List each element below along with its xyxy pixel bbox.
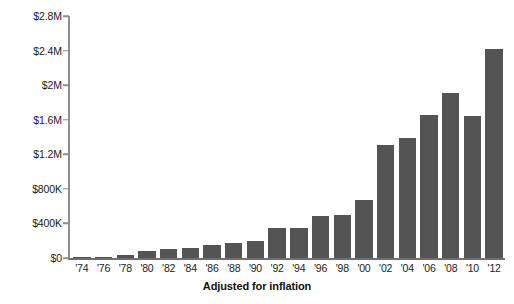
x-axis-tick-label: '90 xyxy=(245,262,267,274)
x-axis-tick-label: '98 xyxy=(331,262,353,274)
bar xyxy=(73,257,90,258)
bar xyxy=(160,249,177,258)
x-axis-tick-label: '96 xyxy=(310,262,332,274)
bar xyxy=(399,138,416,258)
bar xyxy=(420,115,437,258)
x-axis-tick-label: '78 xyxy=(114,262,136,274)
x-axis-line xyxy=(68,258,505,260)
x-axis-tick-label: '76 xyxy=(93,262,115,274)
y-axis-tick-label: $2.4M xyxy=(0,45,62,57)
x-axis-tick-label: '12 xyxy=(483,262,505,274)
bar xyxy=(95,257,112,258)
y-axis-tick-label: $2.8M xyxy=(0,10,62,22)
x-axis-tick-label: '88 xyxy=(223,262,245,274)
x-axis-tick-label: '08 xyxy=(440,262,462,274)
y-axis-tick-mark xyxy=(63,119,69,121)
y-axis-tick-label: $1.6M xyxy=(0,114,62,126)
bar xyxy=(225,243,242,258)
bar xyxy=(182,248,199,258)
bar xyxy=(312,216,329,258)
y-axis-tick-mark xyxy=(63,15,69,17)
y-axis-tick-mark xyxy=(63,257,69,259)
x-axis-tick-label: '06 xyxy=(418,262,440,274)
x-axis-tick-label: '74 xyxy=(71,262,93,274)
bar xyxy=(138,251,155,258)
x-axis-tick-label: '94 xyxy=(288,262,310,274)
bar xyxy=(290,228,307,258)
bar xyxy=(377,145,394,258)
x-axis-tick-label: '02 xyxy=(375,262,397,274)
bar xyxy=(464,116,481,258)
y-axis-tick-label: $1.2M xyxy=(0,148,62,160)
y-axis-tick-mark xyxy=(63,223,69,225)
bar xyxy=(442,93,459,258)
y-axis-tick-mark xyxy=(63,84,69,86)
bar xyxy=(117,255,134,258)
x-axis-tick-label: '80 xyxy=(136,262,158,274)
y-axis-tick-mark xyxy=(63,188,69,190)
x-axis-tick-label: '84 xyxy=(180,262,202,274)
y-axis-tick-label: $400K xyxy=(0,217,62,229)
y-axis-tick-mark xyxy=(63,154,69,156)
y-axis-tick-mark xyxy=(63,50,69,52)
chart-screenshot: $0$400K$800K$1.2M$1.6M$2M$2.4M$2.8M '74'… xyxy=(0,0,514,304)
bar-chart: $0$400K$800K$1.2M$1.6M$2M$2.4M$2.8M '74'… xyxy=(0,0,514,304)
x-axis-title: Adjusted for inflation xyxy=(0,280,514,292)
y-axis-tick-label: $2M xyxy=(0,79,62,91)
x-axis-tick-label: '82 xyxy=(158,262,180,274)
bar xyxy=(355,200,372,258)
x-axis-tick-label: '92 xyxy=(266,262,288,274)
bar xyxy=(334,215,351,258)
y-axis-tick-label: $800K xyxy=(0,183,62,195)
y-axis-tick-label: $0 xyxy=(0,252,62,264)
x-axis-tick-label: '04 xyxy=(397,262,419,274)
x-axis-tick-label: '10 xyxy=(462,262,484,274)
bar xyxy=(203,245,220,258)
bar xyxy=(247,241,264,258)
bar xyxy=(485,49,502,258)
bar xyxy=(268,228,285,258)
x-axis-tick-label: '86 xyxy=(201,262,223,274)
x-axis-tick-label: '00 xyxy=(353,262,375,274)
